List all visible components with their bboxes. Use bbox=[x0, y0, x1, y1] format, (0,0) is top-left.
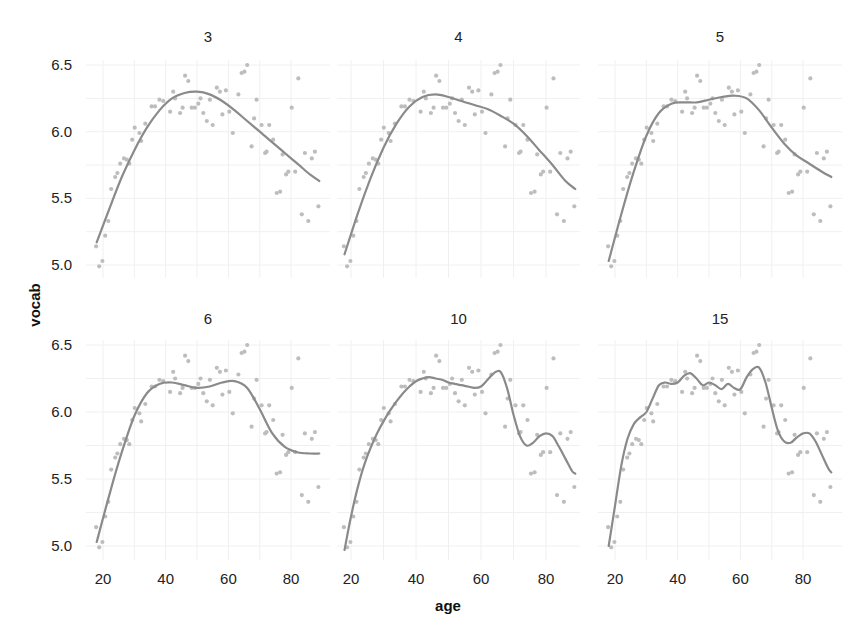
x-tick-label: 40 bbox=[669, 570, 686, 587]
data-point bbox=[717, 399, 721, 403]
data-point bbox=[639, 162, 643, 166]
panel-title: 3 bbox=[204, 28, 212, 45]
data-point bbox=[736, 368, 740, 372]
y-tick-label: 5.5 bbox=[51, 470, 72, 487]
data-point bbox=[558, 151, 562, 155]
data-point bbox=[705, 386, 709, 390]
data-point bbox=[783, 418, 787, 422]
data-point bbox=[94, 525, 98, 529]
x-axis: 204060802040608020406080 bbox=[95, 570, 812, 587]
data-point bbox=[525, 418, 529, 422]
data-point bbox=[818, 219, 822, 223]
data-point bbox=[208, 378, 212, 382]
data-point bbox=[762, 144, 766, 148]
panel-title: 4 bbox=[454, 28, 462, 45]
y-axis: 5.05.56.06.55.05.56.06.5 bbox=[51, 56, 72, 554]
data-point bbox=[286, 170, 290, 174]
data-point bbox=[316, 485, 320, 489]
data-point bbox=[127, 442, 131, 446]
data-point bbox=[825, 430, 829, 434]
data-point bbox=[805, 450, 809, 454]
x-tick-label: 40 bbox=[408, 570, 425, 587]
data-point bbox=[615, 514, 619, 518]
data-point bbox=[168, 110, 172, 114]
data-point bbox=[94, 244, 98, 248]
data-point bbox=[100, 259, 104, 263]
data-point bbox=[508, 98, 512, 102]
smooth-curve-df-6 bbox=[97, 381, 320, 542]
data-point bbox=[541, 170, 545, 174]
data-point bbox=[437, 79, 441, 83]
data-point bbox=[825, 150, 829, 154]
data-point bbox=[713, 391, 717, 395]
data-point bbox=[250, 425, 254, 429]
data-point bbox=[713, 111, 717, 115]
data-point bbox=[529, 472, 533, 476]
data-point bbox=[118, 162, 122, 166]
data-point bbox=[764, 397, 768, 401]
x-tick-label: 20 bbox=[95, 570, 112, 587]
data-point bbox=[171, 90, 175, 94]
x-tick-label: 40 bbox=[157, 570, 174, 587]
data-point bbox=[157, 98, 161, 102]
data-point bbox=[357, 468, 361, 472]
data-point bbox=[242, 70, 246, 74]
data-point bbox=[651, 419, 655, 423]
data-point bbox=[695, 74, 699, 78]
data-point bbox=[822, 156, 826, 160]
data-point bbox=[548, 170, 552, 174]
data-point bbox=[310, 156, 314, 160]
data-point bbox=[705, 106, 709, 110]
data-point bbox=[802, 386, 806, 390]
data-point bbox=[685, 96, 689, 100]
grid-lines bbox=[337, 340, 580, 560]
data-point bbox=[265, 150, 269, 154]
data-point bbox=[630, 442, 634, 446]
data-point bbox=[357, 187, 361, 191]
data-point bbox=[362, 175, 366, 179]
data-point bbox=[483, 131, 487, 135]
data-point bbox=[463, 123, 467, 127]
data-points bbox=[94, 343, 321, 550]
data-point bbox=[521, 403, 525, 407]
data-point bbox=[690, 391, 694, 395]
data-point bbox=[460, 378, 464, 382]
data-point bbox=[545, 106, 549, 110]
data-point bbox=[205, 119, 209, 123]
panel-3: 3 bbox=[86, 28, 330, 278]
data-point bbox=[100, 540, 104, 544]
data-point bbox=[106, 219, 110, 223]
data-point bbox=[535, 152, 539, 156]
data-point bbox=[227, 110, 231, 114]
data-point bbox=[389, 419, 393, 423]
y-tick-label: 6.0 bbox=[51, 403, 72, 420]
data-point bbox=[649, 411, 653, 415]
data-point bbox=[476, 88, 480, 92]
data-point bbox=[193, 106, 197, 110]
data-points bbox=[342, 63, 577, 269]
data-point bbox=[403, 384, 407, 388]
data-point bbox=[625, 175, 629, 179]
data-point bbox=[181, 386, 185, 390]
data-point bbox=[710, 376, 714, 380]
data-point bbox=[476, 368, 480, 372]
data-point bbox=[201, 391, 205, 395]
data-point bbox=[296, 356, 300, 360]
data-point bbox=[655, 402, 659, 406]
data-point bbox=[224, 88, 228, 92]
data-point bbox=[218, 90, 222, 94]
data-point bbox=[545, 386, 549, 390]
data-point bbox=[432, 106, 436, 110]
data-point bbox=[708, 102, 712, 106]
data-point bbox=[496, 70, 500, 74]
data-point bbox=[382, 126, 386, 130]
data-point bbox=[639, 442, 643, 446]
data-point bbox=[698, 359, 702, 363]
data-point bbox=[822, 437, 826, 441]
faceted-scatter-chart: 34561015 5.05.56.06.55.05.56.06.5 204060… bbox=[0, 0, 860, 634]
data-point bbox=[562, 500, 566, 504]
data-point bbox=[815, 431, 819, 435]
data-point bbox=[290, 386, 294, 390]
data-point bbox=[236, 92, 240, 96]
data-point bbox=[683, 90, 687, 94]
